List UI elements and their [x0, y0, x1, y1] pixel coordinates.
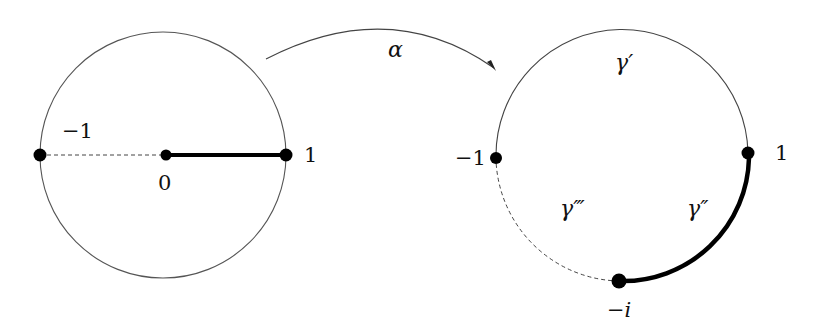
label-minus-one-left: −1	[62, 119, 93, 143]
label-minus-one-right: −1	[455, 146, 486, 170]
label-gamma-double-prime: γ″	[687, 196, 709, 221]
left-disk: −1 0 1	[34, 32, 318, 278]
label-minus-i: −i	[607, 298, 631, 322]
arrowhead-icon	[487, 60, 496, 71]
right-circle: −1 1 −i γ′ γ″ γ‴	[455, 30, 788, 322]
point-one-right	[742, 147, 755, 160]
label-alpha: α	[388, 37, 403, 62]
point-zero	[161, 150, 172, 161]
diagram-canvas: −1 0 1 α −1 1 −i γ′ γ″ γ‴	[0, 0, 818, 332]
label-zero: 0	[158, 171, 171, 195]
label-gamma-triple-prime: γ‴	[560, 196, 585, 221]
label-one-right: 1	[775, 141, 788, 165]
label-gamma-prime: γ′	[615, 50, 633, 75]
arc-gamma-prime	[496, 30, 748, 158]
point-minus-one-right	[490, 152, 502, 164]
arrow-curve	[266, 29, 494, 68]
label-one-left: 1	[304, 143, 317, 167]
point-minus-one-left	[34, 149, 47, 162]
mapping-arrow: α	[266, 29, 496, 71]
arc-gamma-double-prime	[620, 158, 749, 281]
point-one-left	[280, 149, 293, 162]
arc-gamma-triple-prime	[496, 160, 619, 281]
point-minus-i	[612, 274, 627, 289]
